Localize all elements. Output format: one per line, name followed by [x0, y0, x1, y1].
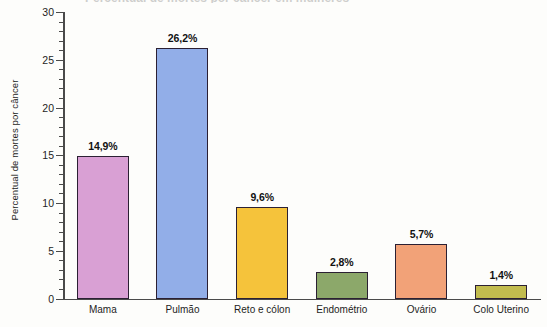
- bar: [77, 156, 129, 298]
- bar: [316, 272, 368, 299]
- y-tick-major: [56, 12, 63, 13]
- y-axis-label: Percentual de mortes por câncer: [8, 0, 22, 300]
- x-axis-category-label: Reto e cólon: [234, 304, 290, 315]
- y-tick-major: [56, 299, 63, 300]
- bar: [236, 207, 288, 299]
- y-tick-major: [56, 108, 63, 109]
- cropped-chart-title: Percentual de mortes por câncer em mulhe…: [85, 0, 415, 3]
- bar-group: 2,8%Endométrio: [302, 12, 382, 300]
- bar-group: 26,2%Pulmão: [143, 12, 223, 300]
- x-axis-category-label: Endométrio: [316, 304, 367, 315]
- y-tick-major: [56, 60, 63, 61]
- bar: [395, 244, 447, 298]
- bar-value-label: 5,7%: [410, 228, 434, 240]
- bar-value-label: 1,4%: [489, 269, 513, 281]
- bar: [156, 48, 208, 298]
- y-tick-label: 5: [48, 245, 54, 257]
- y-tick-major: [56, 251, 63, 252]
- x-axis-category-label: Pulmão: [166, 304, 200, 315]
- y-tick-label: 10: [42, 197, 54, 209]
- bar-group: 5,7%Ovário: [382, 12, 462, 300]
- plot-area: 051015202530 14,9%Mama26,2%Pulmão9,6%Ret…: [63, 12, 541, 300]
- y-tick-label: 25: [42, 54, 54, 66]
- x-axis-category-label: Colo Uterino: [473, 304, 529, 315]
- y-tick-label: 15: [42, 149, 54, 161]
- bar: [475, 285, 527, 298]
- bar-value-label: 14,9%: [88, 140, 117, 152]
- y-tick-label: 20: [42, 102, 54, 114]
- bar-chart: Percentual de mortes por câncer em mulhe…: [0, 0, 547, 327]
- x-axis-category-label: Ovário: [407, 304, 436, 315]
- bar-value-label: 26,2%: [168, 32, 197, 44]
- y-tick-major: [56, 203, 63, 204]
- x-axis-category-label: Mama: [89, 304, 117, 315]
- bar-group: 9,6%Reto e cólon: [222, 12, 302, 300]
- bar-value-label: 2,8%: [330, 256, 354, 268]
- y-tick-label: 0: [48, 293, 54, 305]
- y-tick-major: [56, 155, 63, 156]
- bar-group: 1,4%Colo Uterino: [461, 12, 541, 300]
- y-tick-label: 30: [42, 6, 54, 18]
- bar-value-label: 9,6%: [250, 191, 274, 203]
- bar-group: 14,9%Mama: [63, 12, 143, 300]
